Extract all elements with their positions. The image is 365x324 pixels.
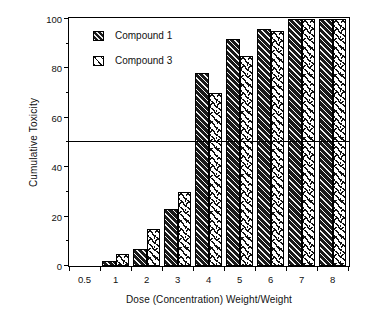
x-tick-0.5: [100, 266, 101, 271]
y-tick-label-80: 80: [51, 63, 62, 74]
bar-8-compound-1: [319, 19, 333, 266]
x-tick-1: [131, 266, 132, 271]
plot-inner: 020406080100 0.512345678 Compound 1 Comp…: [69, 18, 349, 266]
y-tick-label-60: 60: [51, 112, 62, 123]
chart-figure: Cumulative Toxicity Dose (Concentration)…: [0, 0, 365, 324]
bar-8-compound-3: [333, 19, 347, 266]
legend-label-compound-3: Compound 3: [115, 55, 172, 66]
x-tick-5: [255, 266, 256, 271]
y-tick-20: [64, 216, 69, 217]
bar-3-compound-1: [164, 209, 178, 266]
y-tick-60: [64, 117, 69, 118]
bar-4-compound-1: [195, 73, 209, 266]
x-tick-8: [348, 266, 349, 271]
y-tick-80: [64, 67, 69, 68]
y-tick-label-100: 100: [46, 13, 62, 24]
y-tick-label-20: 20: [51, 211, 62, 222]
x-tick-label-0.5: 0.5: [78, 274, 91, 285]
x-tick-3: [193, 266, 194, 271]
x-axis-title: Dose (Concentration) Weight/Weight: [68, 294, 350, 305]
bar-2-compound-1: [133, 249, 147, 266]
y-tick-minor-10: [66, 240, 69, 241]
legend-item-compound-3: Compound 3: [93, 55, 172, 66]
y-axis-title: Cumulative Toxicity: [28, 63, 39, 223]
x-tick-label-3: 3: [175, 274, 180, 285]
bar-7-compound-1: [288, 19, 302, 266]
bar-5-compound-1: [226, 39, 240, 266]
bar-6-compound-1: [257, 29, 271, 266]
chart-legend: Compound 1 Compound 3: [93, 30, 172, 80]
x-tick-label-1: 1: [113, 274, 118, 285]
bar-6-compound-3: [271, 31, 285, 266]
x-tick-4: [224, 266, 225, 271]
bar-1-compound-3: [116, 254, 130, 266]
x-tick-label-5: 5: [237, 274, 242, 285]
reference-line-50: [69, 141, 349, 142]
x-tick-label-7: 7: [299, 274, 304, 285]
x-tick-label-6: 6: [268, 274, 273, 285]
legend-label-compound-1: Compound 1: [115, 30, 172, 41]
x-tick-label-4: 4: [206, 274, 211, 285]
x-tick-label-2: 2: [144, 274, 149, 285]
y-tick-minor-70: [66, 92, 69, 93]
bar-1-compound-1: [102, 261, 116, 266]
compound-3-swatch: [93, 56, 104, 66]
bar-3-compound-3: [178, 192, 192, 266]
x-tick-origin: [69, 266, 70, 271]
bar-4-compound-3: [209, 93, 223, 266]
bar-7-compound-3: [302, 19, 316, 266]
bar-2-compound-3: [147, 229, 161, 266]
y-tick-100: [64, 18, 69, 19]
plot-area: 020406080100 0.512345678 Compound 1 Comp…: [68, 17, 350, 267]
legend-item-compound-1: Compound 1: [93, 30, 172, 41]
x-tick-7: [317, 266, 318, 271]
compound-1-swatch: [93, 31, 104, 41]
x-tick-2: [162, 266, 163, 271]
y-tick-minor-90: [66, 43, 69, 44]
bar-5-compound-3: [240, 56, 254, 266]
y-tick-minor-30: [66, 191, 69, 192]
y-tick-label-40: 40: [51, 162, 62, 173]
y-tick-label-0: 0: [57, 261, 62, 272]
x-tick-6: [286, 266, 287, 271]
x-tick-label-8: 8: [330, 274, 335, 285]
y-tick-40: [64, 166, 69, 167]
